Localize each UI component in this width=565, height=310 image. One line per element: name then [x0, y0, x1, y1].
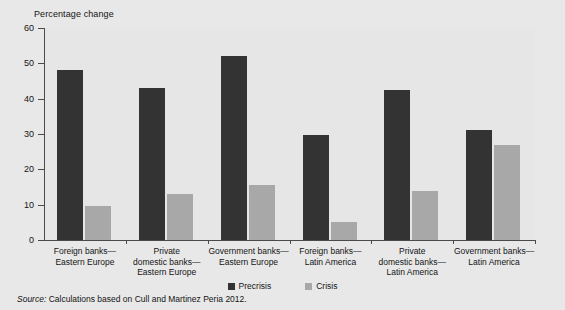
category-label-line: Eastern Europe	[44, 257, 126, 268]
y-tick-label: 40	[4, 94, 34, 104]
category-label-line: Government banks—	[453, 246, 535, 257]
bar-precrisis-6	[466, 130, 492, 240]
y-tick-label: 0	[4, 235, 34, 245]
category-label-line: Private	[126, 246, 208, 257]
category-label-line: domestic banks—	[371, 257, 453, 268]
y-tick-label: 50	[4, 58, 34, 68]
legend-label: Crisis	[316, 281, 337, 291]
category-label-line: Latin America	[453, 257, 535, 268]
x-group-tick	[208, 240, 209, 244]
bar-crisis-2	[167, 194, 193, 240]
category-label-4: Foreign banks—Latin America	[290, 246, 372, 267]
bar-precrisis-3	[221, 56, 247, 240]
bar-precrisis-2	[139, 88, 165, 240]
category-label-5: Privatedomestic banks—Latin America	[371, 246, 453, 278]
legend-item-precrisis[interactable]: Precrisis	[228, 281, 272, 291]
category-label-line: Government banks—	[208, 246, 290, 257]
category-label-line: Foreign banks—	[290, 246, 372, 257]
category-label-line: Private	[371, 246, 453, 257]
chart-legend: PrecrisisCrisis	[0, 281, 565, 291]
x-group-tick	[453, 240, 454, 244]
bar-crisis-4	[331, 222, 357, 240]
category-label-line: Latin America	[371, 267, 453, 278]
legend-label: Precrisis	[239, 281, 272, 291]
y-tick-label: 30	[4, 129, 34, 139]
category-label-3: Government banks—Eastern Europe	[208, 246, 290, 267]
y-tick-mark	[38, 99, 44, 100]
y-tick-mark	[38, 205, 44, 206]
category-label-line: domestic banks—	[126, 257, 208, 268]
bar-precrisis-5	[384, 90, 410, 240]
category-label-line: Eastern Europe	[126, 267, 208, 278]
bar-precrisis-4	[303, 135, 329, 240]
bar-precrisis-1	[57, 70, 83, 240]
x-group-tick	[290, 240, 291, 244]
y-axis-title: Percentage change	[34, 9, 114, 19]
legend-swatch-icon	[228, 283, 235, 290]
y-tick-label: 10	[4, 200, 34, 210]
y-tick-label: 20	[4, 164, 34, 174]
y-tick-mark	[38, 28, 44, 29]
x-group-tick	[535, 240, 536, 244]
category-label-line: Foreign banks—	[44, 246, 126, 257]
bar-crisis-1	[85, 206, 111, 240]
y-tick-mark	[38, 63, 44, 64]
legend-swatch-icon	[305, 283, 312, 290]
category-label-2: Privatedomestic banks—Eastern Europe	[126, 246, 208, 278]
x-group-tick	[126, 240, 127, 244]
y-axis-line	[44, 28, 45, 241]
y-tick-mark	[38, 240, 44, 241]
legend-item-crisis[interactable]: Crisis	[305, 281, 337, 291]
source-note: Source: Calculations based on Cull and M…	[17, 294, 247, 304]
bar-crisis-5	[412, 191, 438, 240]
bar-crisis-6	[494, 145, 520, 240]
plot-area	[44, 28, 535, 240]
source-text: Calculations based on Cull and Martinez …	[49, 294, 247, 304]
y-tick-mark	[38, 169, 44, 170]
source-label: Source:	[17, 294, 46, 304]
category-label-line: Eastern Europe	[208, 257, 290, 268]
y-tick-mark	[38, 134, 44, 135]
y-tick-label: 60	[4, 23, 34, 33]
x-group-tick	[371, 240, 372, 244]
category-label-line: Latin America	[290, 257, 372, 268]
category-label-6: Government banks—Latin America	[453, 246, 535, 267]
bar-crisis-3	[249, 185, 275, 240]
category-label-1: Foreign banks—Eastern Europe	[44, 246, 126, 267]
